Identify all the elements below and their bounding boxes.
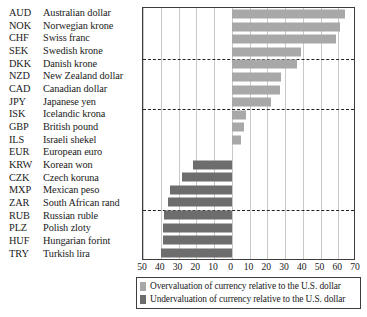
bar-row bbox=[143, 184, 354, 197]
x-tick-label: 10 bbox=[244, 261, 254, 273]
currency-label-row: CADCanadian dollar bbox=[0, 83, 140, 96]
currency-name: Polish zloty bbox=[40, 223, 91, 233]
bar-row bbox=[143, 46, 354, 59]
bar-aud bbox=[232, 10, 346, 19]
currency-name: Swiss franc bbox=[40, 33, 90, 43]
bar-huf bbox=[163, 236, 232, 245]
chart-legend: Overvaluation of currency relative to th… bbox=[136, 277, 361, 309]
bar-rub bbox=[164, 211, 231, 220]
currency-valuation-chart: AUDAustralian dollarNOKNorwegian kroneCH… bbox=[0, 0, 367, 317]
currency-code: NZD bbox=[0, 71, 40, 81]
currency-name: Israeli shekel bbox=[40, 135, 96, 145]
currency-label-row: KRWKorean won bbox=[0, 159, 140, 172]
x-tick-label: 30 bbox=[279, 261, 289, 273]
bar-row bbox=[143, 121, 354, 134]
currency-code: CZK bbox=[0, 173, 40, 183]
bar-plz bbox=[163, 223, 232, 232]
legend-swatch-over bbox=[140, 282, 146, 291]
currency-name: Swedish krone bbox=[40, 46, 103, 56]
bar-row bbox=[143, 83, 354, 96]
bar-series bbox=[143, 8, 354, 259]
currency-label-row: PLZPolish zloty bbox=[0, 222, 140, 235]
x-axis-ticks: 5040302010010203040506070 bbox=[142, 261, 355, 273]
bar-nzd bbox=[232, 73, 282, 82]
currency-name: Hungarian forint bbox=[40, 236, 110, 246]
currency-code: ISK bbox=[0, 109, 40, 119]
x-tick-label: 40 bbox=[155, 261, 165, 273]
currency-label-row: GBPBritish pound bbox=[0, 121, 140, 134]
legend-item-under: Undervaluation of currency relative to t… bbox=[140, 293, 357, 306]
bar-gbp bbox=[232, 123, 244, 132]
currency-code: TRY bbox=[0, 249, 40, 259]
bar-krw bbox=[193, 160, 232, 169]
bar-dkk bbox=[232, 60, 298, 69]
currency-name: Danish krone bbox=[40, 59, 97, 69]
currency-name: Czech koruna bbox=[40, 173, 99, 183]
currency-code: ZAR bbox=[0, 198, 40, 208]
currency-name: European euro bbox=[40, 147, 102, 157]
bar-row bbox=[143, 146, 354, 159]
currency-code: GBP bbox=[0, 122, 40, 132]
bar-row bbox=[143, 221, 354, 234]
bar-row bbox=[143, 21, 354, 34]
x-tick-label: 50 bbox=[315, 261, 325, 273]
currency-label-row: JPYJapanese yen bbox=[0, 96, 140, 109]
x-tick-label: 20 bbox=[190, 261, 200, 273]
x-tick-label: 20 bbox=[261, 261, 271, 273]
bar-row bbox=[143, 96, 354, 109]
x-tick-label: 70 bbox=[350, 261, 360, 273]
plot-area bbox=[142, 7, 355, 260]
bar-row bbox=[143, 33, 354, 46]
currency-code: CAD bbox=[0, 84, 40, 94]
currency-name: Australian dollar bbox=[40, 8, 111, 18]
x-tick-label: 30 bbox=[173, 261, 183, 273]
currency-name: Russian ruble bbox=[40, 211, 98, 221]
currency-label-row: NOKNorwegian krone bbox=[0, 20, 140, 33]
legend-label: Overvaluation of currency relative to th… bbox=[150, 280, 341, 293]
x-tick-label: 40 bbox=[297, 261, 307, 273]
currency-name: South African rand bbox=[40, 198, 120, 208]
bar-row bbox=[143, 71, 354, 84]
x-tick-label: 0 bbox=[228, 261, 233, 273]
bar-chf bbox=[232, 35, 337, 44]
bar-nok bbox=[232, 22, 340, 31]
legend-label: Undervaluation of currency relative to t… bbox=[150, 293, 345, 306]
currency-name: New Zealand dollar bbox=[40, 71, 123, 81]
bar-cad bbox=[232, 85, 280, 94]
currency-label-row: CZKCzech koruna bbox=[0, 172, 140, 185]
currency-code: RUB bbox=[0, 211, 40, 221]
currency-name: Korean won bbox=[40, 160, 93, 170]
bar-mxp bbox=[170, 185, 232, 194]
currency-name: British pound bbox=[40, 122, 98, 132]
currency-label-row: MXPMexican peso bbox=[0, 184, 140, 197]
currency-label-row: ILSIsraeli shekel bbox=[0, 134, 140, 147]
currency-code: KRW bbox=[0, 160, 40, 170]
x-tick-label: 10 bbox=[208, 261, 218, 273]
bar-row bbox=[143, 133, 354, 146]
currency-label-column: AUDAustralian dollarNOKNorwegian kroneCH… bbox=[0, 7, 140, 260]
currency-code: CHF bbox=[0, 33, 40, 43]
currency-name: Japanese yen bbox=[40, 97, 96, 107]
currency-label-row: RUBRussian ruble bbox=[0, 210, 140, 223]
currency-name: Icelandic krona bbox=[40, 109, 105, 119]
bar-zar bbox=[168, 198, 232, 207]
bar-row bbox=[143, 209, 354, 222]
currency-label-row: AUDAustralian dollar bbox=[0, 7, 140, 20]
currency-code: JPY bbox=[0, 97, 40, 107]
currency-label-row: DKKDanish krone bbox=[0, 58, 140, 71]
currency-label-row: CHFSwiss franc bbox=[0, 32, 140, 45]
currency-code: DKK bbox=[0, 59, 40, 69]
currency-label-row: ZARSouth African rand bbox=[0, 197, 140, 210]
currency-label-row: TRYTurkish lira bbox=[0, 247, 140, 260]
currency-label-row: HUFHungarian forint bbox=[0, 235, 140, 248]
currency-name: Norwegian krone bbox=[40, 21, 113, 31]
bar-isk bbox=[232, 110, 246, 119]
currency-label-row: EUREuropean euro bbox=[0, 146, 140, 159]
currency-code: ILS bbox=[0, 135, 40, 145]
bar-row bbox=[143, 234, 354, 247]
currency-label-row: ISKIcelandic krona bbox=[0, 108, 140, 121]
currency-code: EUR bbox=[0, 147, 40, 157]
currency-name: Canadian dollar bbox=[40, 84, 107, 94]
currency-label-row: NZDNew Zealand dollar bbox=[0, 70, 140, 83]
bar-czk bbox=[182, 173, 232, 182]
